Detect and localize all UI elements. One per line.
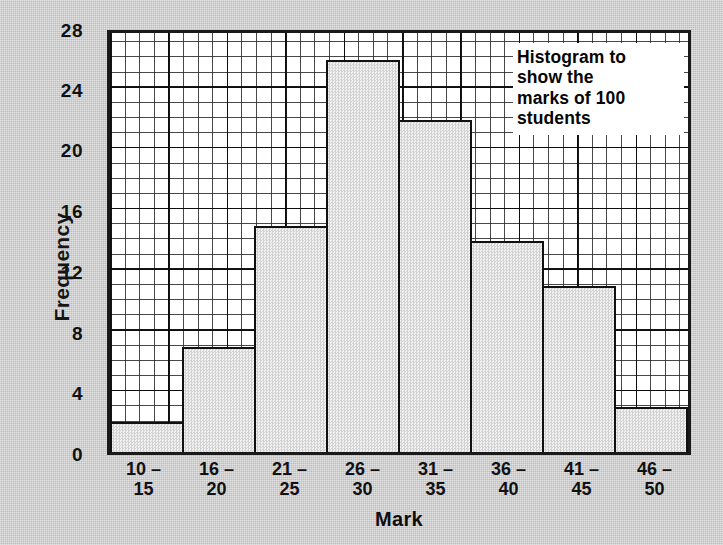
x-tick-line-bottom: 30 [326,479,399,499]
chart-title-line-3: marks of 100 [517,88,680,108]
x-tick-label-10-15: 10 – 15 [107,459,180,499]
x-tick-line-bottom: 45 [545,479,618,499]
x-tick-line-bottom: 35 [399,479,472,499]
x-tick-line-bottom: 20 [180,479,253,499]
chart-title: Histogram to show the marks of 100 stude… [513,43,684,135]
histogram-figure: 0 4 8 12 16 20 24 28 Frequency H [0,0,723,545]
x-axis-title: Mark [107,508,691,531]
x-tick-line-top: 10 – [107,459,180,479]
x-tick-label-16-20: 16 – 20 [180,459,253,499]
chart-title-line-1: Histogram to [517,47,680,67]
bar-31-35[interactable] [398,120,472,452]
x-tick-line-bottom: 50 [618,479,691,499]
y-tick-label-4: 4 [72,383,83,405]
x-tick-line-top: 31 – [399,459,472,479]
chart-title-line-2: show the [517,67,680,87]
x-tick-label-21-25: 21 – 25 [253,459,326,499]
x-tick-line-bottom: 40 [472,479,545,499]
x-tick-line-bottom: 15 [107,479,180,499]
x-tick-label-26-30: 26 – 30 [326,459,399,499]
x-tick-line-top: 16 – [180,459,253,479]
bar-21-25[interactable] [254,226,328,452]
y-tick-label-20: 20 [61,140,83,162]
bar-36-40[interactable] [470,241,544,452]
x-tick-line-top: 46 – [618,459,691,479]
bar-46-50[interactable] [614,407,688,452]
x-tick-label-41-45: 41 – 45 [545,459,618,499]
bar-26-30[interactable] [326,60,400,452]
y-tick-label-28: 28 [61,20,83,42]
y-tick-label-0: 0 [72,444,83,466]
y-tick-label-24: 24 [61,80,83,102]
x-tick-line-top: 21 – [253,459,326,479]
x-tick-label-36-40: 36 – 40 [472,459,545,499]
x-axis: 10 – 15 16 – 20 21 – 25 26 – 30 31 – 35 … [107,459,691,499]
x-tick-label-46-50: 46 – 50 [618,459,691,499]
bar-16-20[interactable] [182,347,256,453]
x-tick-line-top: 41 – [545,459,618,479]
x-tick-line-bottom: 25 [253,479,326,499]
chart-title-line-4: students [517,108,680,128]
y-axis-title: Frequency [50,187,74,347]
x-tick-label-31-35: 31 – 35 [399,459,472,499]
bar-41-45[interactable] [542,286,616,452]
x-tick-line-top: 36 – [472,459,545,479]
x-tick-line-top: 26 – [326,459,399,479]
bar-10-15[interactable] [110,422,184,452]
